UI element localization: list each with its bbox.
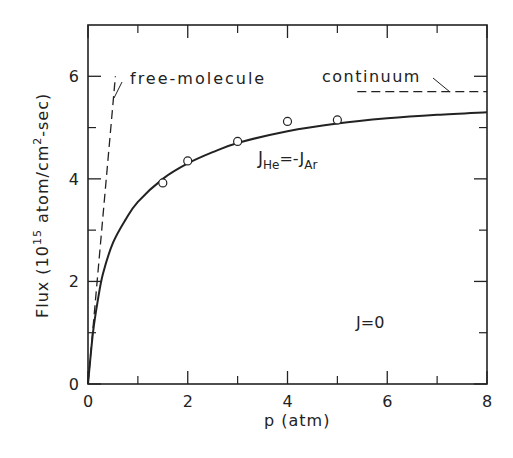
x-tick-label: 8 (482, 392, 492, 411)
data-point-marker (333, 116, 341, 124)
free-molecule-label: free-molecule (130, 69, 266, 88)
y-tick-label: 6 (69, 67, 79, 86)
data-point-marker (184, 157, 192, 165)
j-zero-label: J=0 (355, 313, 384, 332)
continuum-leader (433, 78, 450, 92)
x-tick-label: 4 (282, 392, 292, 411)
j-he-label: JHe=-JAr (257, 148, 317, 172)
x-axis-label: p (atm) (264, 411, 330, 430)
y-tick-label: 4 (69, 170, 79, 189)
y-axis-label: Flux (1015 atom/cm2-sec) (31, 93, 52, 318)
data-point-marker (234, 137, 242, 145)
plot-series (88, 76, 487, 384)
continuum-label: continuum (322, 67, 421, 86)
x-tick-label: 2 (183, 392, 193, 411)
data-point-marker (284, 117, 292, 125)
y-tick-label: 0 (69, 375, 79, 394)
y-tick-label: 2 (69, 272, 79, 291)
x-tick-label: 6 (382, 392, 392, 411)
x-tick-label: 0 (83, 392, 93, 411)
chart: 024680246 free-molecule continuum JHe=-J… (0, 0, 513, 458)
flux-relation-label: JHe=-JAr (257, 148, 317, 172)
data-point-marker (159, 179, 167, 187)
